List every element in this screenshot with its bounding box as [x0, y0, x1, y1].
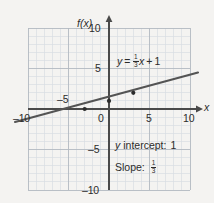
x-tick-label-neg10: –10: [13, 113, 30, 124]
x-axis-label: x: [204, 102, 209, 113]
equation-plus: +: [146, 55, 152, 67]
y-tick-label-10: 10: [89, 23, 100, 34]
x-axis-arrow: [196, 106, 203, 113]
slope-fraction-denominator: 3: [151, 167, 157, 175]
x-tick-label-0: 0: [98, 113, 104, 124]
equation-fraction: 13: [133, 54, 139, 68]
function-line: [15, 73, 198, 122]
x-tick-label-5: 5: [146, 113, 152, 124]
x-tick-label-10: 10: [183, 113, 194, 124]
y-tick-label-5: 5: [95, 63, 101, 74]
point-0-1: [107, 99, 111, 103]
equation-annotation: y=13x+1: [117, 54, 160, 68]
equation-variable: x: [139, 55, 144, 67]
equation-equals: =: [124, 55, 130, 67]
y-intercept-variable: y: [115, 139, 120, 151]
equation-fraction-denominator: 3: [133, 61, 139, 69]
point-3-2: [131, 91, 135, 95]
slope-annotation: Slope:13: [115, 160, 157, 174]
y-axis-arrow: [106, 15, 113, 22]
x-tick-label-neg5: –5: [57, 94, 68, 105]
equation-lhs: y: [117, 55, 122, 67]
slope-fraction: 13: [151, 160, 157, 174]
equation-fraction-numerator: 1: [133, 54, 139, 61]
equation-constant: 1: [154, 55, 160, 67]
coordinate-plane: [0, 0, 214, 203]
y-intercept-annotation: yintercept:1: [115, 140, 176, 151]
slope-fraction-numerator: 1: [151, 160, 157, 167]
y-intercept-text: intercept:: [123, 139, 166, 151]
point-neg3-0: [83, 107, 87, 111]
y-tick-label-neg10: –10: [82, 185, 99, 196]
y-tick-label-neg5: –5: [88, 144, 99, 155]
slope-text: Slope:: [115, 161, 145, 173]
graph-figure: f(x) x 10 5 –5 –10 –10 –5 0 5 10 y=13x+1…: [0, 0, 214, 203]
y-intercept-value: 1: [170, 139, 176, 151]
